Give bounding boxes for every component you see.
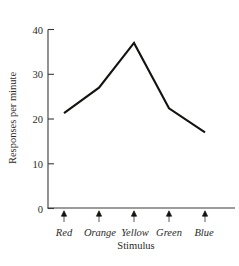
x-axis-title: Stimulus bbox=[117, 240, 154, 251]
line-chart-plot: 40 30 20 10 0 Red Orange Yellow Green Bl… bbox=[0, 0, 239, 266]
y-tick-label-0: 0 bbox=[38, 204, 43, 215]
x-tick-label-orange: Orange bbox=[84, 227, 116, 238]
data-series-line bbox=[64, 43, 205, 132]
x-tick-arrow-red bbox=[61, 211, 66, 222]
x-tick-label-green: Green bbox=[156, 227, 182, 238]
y-tick-label-30: 30 bbox=[33, 69, 44, 80]
x-tick-label-yellow: Yellow bbox=[121, 227, 149, 238]
y-tick-label-20: 20 bbox=[33, 114, 44, 125]
y-axis-title: Responses per minute bbox=[7, 72, 18, 164]
x-tick-arrow-orange bbox=[96, 211, 101, 222]
x-tick-arrow-yellow bbox=[131, 211, 136, 222]
x-tick-label-blue: Blue bbox=[194, 227, 214, 238]
y-tick-label-40: 40 bbox=[33, 25, 44, 36]
y-tick-label-10: 10 bbox=[33, 159, 44, 170]
x-tick-label-red: Red bbox=[55, 227, 73, 238]
chart-figure: 40 30 20 10 0 Red Orange Yellow Green Bl… bbox=[0, 0, 239, 266]
x-tick-arrow-green bbox=[166, 211, 171, 222]
x-tick-arrow-blue bbox=[202, 211, 207, 222]
